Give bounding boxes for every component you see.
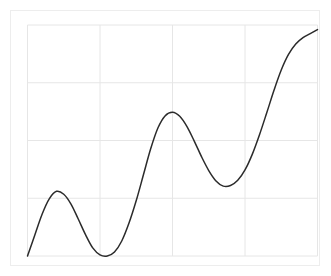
- chart-figure: [0, 0, 331, 276]
- line-chart-plot: [0, 0, 331, 276]
